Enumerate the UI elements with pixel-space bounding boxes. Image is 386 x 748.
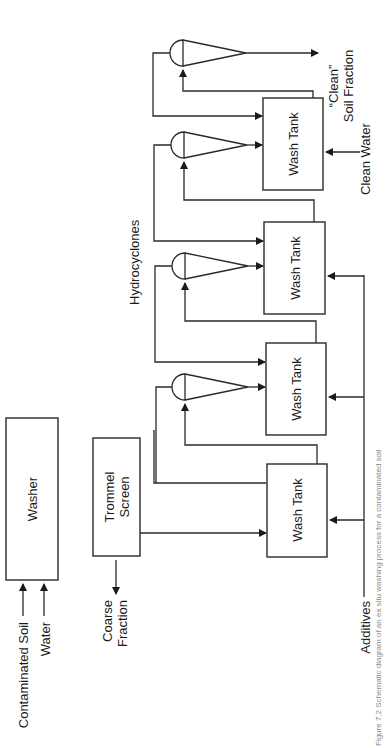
washer-unit: Washer [6,418,58,580]
cyclone1-overflow-line [156,387,172,483]
coarse-label-line2: Fraction [115,600,130,647]
water-input: Water [38,584,53,656]
trommel-label-line2: Screen [117,476,132,517]
soil-washing-process-diagram: Washer Contaminated Soil Water Trommel S… [0,0,386,748]
additives-label: Additives [358,601,373,654]
contaminated-soil-label: Contaminated Soil [16,622,31,728]
figure-caption: Figure 7.2 Schematic diagram of an ex si… [374,449,383,746]
trommel-label-line1: Trommel [102,471,117,522]
hydrocyclone-3 [171,132,247,158]
wash-tank-2: Wash Tank [266,343,326,435]
cyclone3-overflow-line [154,145,263,241]
cyclone4-overflow-line [153,53,262,116]
washer-label: Washer [25,476,40,521]
wash-tank-3: Wash Tank [264,222,325,314]
tank4-to-cyclone4-line [183,70,313,98]
wash-tank-4: Wash Tank [263,98,323,190]
clean-soil-label-line2: Soil Fraction [341,50,356,122]
wash-tank-3-label: Wash Tank [288,236,303,300]
wash-tank-4-label: Wash Tank [286,112,301,176]
coarse-fraction-output: Coarse Fraction [100,560,130,647]
hydrocyclone-1 [172,374,248,400]
hydrocyclone-2 [172,253,248,279]
hydrocyclone-4 [170,40,246,66]
trommel-screen-unit: Trommel Screen [93,438,140,556]
clean-soil-label-line1: “Clean” [326,65,341,108]
wash-tank-2-label: Wash Tank [289,357,304,421]
wash-tank-1-label: Wash Tank [290,478,305,542]
cyclone2-overflow-line [155,266,265,362]
contaminated-soil-input: Contaminated Soil [16,584,31,728]
hydrocyclones-label: Hydrocyclones [127,219,142,305]
additives-input: Additives [328,275,373,654]
washer-to-tank-feed-line [154,430,266,483]
clean-water-input: Clean Water [326,123,373,195]
clean-water-label: Clean Water [358,123,373,195]
water-label: Water [38,621,53,656]
coarse-label-line1: Coarse [100,600,115,642]
wash-tank-1: Wash Tank [267,464,327,557]
